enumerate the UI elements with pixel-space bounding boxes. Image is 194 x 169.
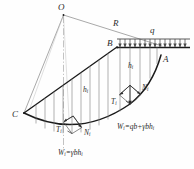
- force-T-left-subscript: i: [60, 128, 61, 134]
- label-point-c: C: [12, 110, 18, 119]
- force-N-left-subscript: i: [89, 131, 90, 137]
- label-surcharge-q: q: [150, 26, 155, 35]
- label-center-o: O: [58, 3, 65, 12]
- label-force-N-left: Ni: [84, 129, 90, 137]
- slice-height-left-subscript: i: [87, 88, 88, 94]
- label-slice-height-right: hi: [128, 62, 133, 70]
- slice-height-right-subscript: i: [132, 64, 133, 70]
- slope-stability-diagram: O R q B A C hi hi Ti Ni Ti Ni Wi=γbhi Wi…: [0, 0, 194, 169]
- force-diagram-right: [119, 85, 140, 105]
- force-T-right-subscript: i: [115, 100, 116, 106]
- weight-left-expression: =γbh: [66, 148, 82, 157]
- label-force-T-right: Ti: [111, 98, 117, 106]
- label-point-a: A: [163, 55, 169, 64]
- vertex-dots: [23, 14, 118, 114]
- label-point-b: B: [107, 39, 113, 48]
- label-radius-r: R: [113, 19, 119, 28]
- weight-right-expression: =qb+γbh: [125, 122, 153, 131]
- label-weight-equation-right: Wi=qb+γbhi: [117, 123, 154, 131]
- weight-left-expression-subscript: i: [81, 151, 82, 157]
- label-slice-height-left: hi: [83, 86, 88, 94]
- slope-surface-cb: [24, 47, 117, 113]
- weight-right-expression-subscript: i: [153, 125, 154, 131]
- label-weight-equation-left: Wi=γbhi: [58, 149, 83, 157]
- diagram-canvas: [0, 0, 194, 169]
- force-N-right-subscript: i: [147, 86, 148, 92]
- slip-surface-arc: [24, 55, 161, 125]
- label-force-N-right: Ni: [142, 84, 148, 92]
- label-force-T-left: Ti: [56, 126, 62, 134]
